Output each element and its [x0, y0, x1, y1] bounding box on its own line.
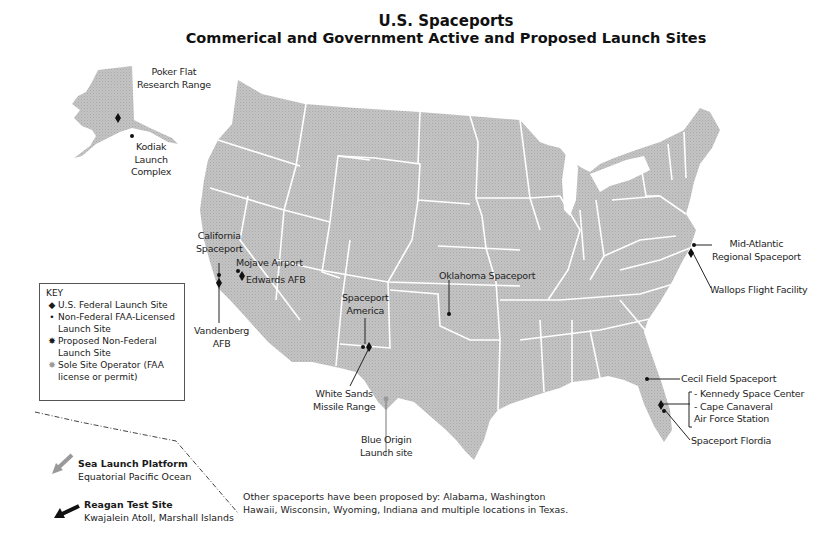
sea-launch-info: Sea Launch Platform Equatorial Pacific O…	[78, 458, 192, 483]
label-kodiak: Kodiak Launch Complex	[131, 141, 171, 179]
proposed-spaceports-note: Other spaceports have been proposed by: …	[243, 490, 568, 516]
label-oklahoma: Oklahoma Spaceport	[439, 270, 535, 283]
marker-oklahoma	[447, 312, 451, 316]
marker-mojave	[236, 269, 240, 273]
marker-mid-atlantic	[692, 243, 696, 247]
label-spaceport-florida: Spaceport Flordia	[691, 435, 771, 448]
marker-spaceport-america	[361, 345, 365, 349]
legend-item-proposed: ✸ Proposed Non-Federal Launch Site	[46, 335, 178, 359]
label-cecil-field: Cecil Field Spaceport	[681, 373, 776, 386]
diamond-icon: ◆	[46, 299, 58, 311]
legend-heading: KEY	[46, 287, 178, 299]
label-mojave: Mojave Airport	[236, 257, 303, 270]
marker-kodiak	[130, 134, 134, 138]
legend-item-federal: ◆ U.S. Federal Launch Site	[46, 299, 178, 311]
legend-item-non-federal: • Non-Federal FAA-Licensed Launch Site	[46, 311, 178, 335]
marker-california-spaceport	[217, 273, 221, 277]
label-white-sands: White Sands Missile Range	[313, 388, 375, 413]
label-mid-atlantic: Mid-Atlantic Regional Spaceport	[712, 238, 801, 263]
marker-blue-origin	[384, 397, 389, 402]
marker-spaceport-florida	[662, 409, 666, 413]
label-vandenberg: Vandenberg AFB	[194, 325, 249, 350]
label-spaceport-america: Spaceport America	[342, 292, 389, 317]
label-poker-flat: Poker Flat Research Range	[137, 66, 211, 91]
reagan-arrow-icon	[54, 506, 79, 518]
map-legend: KEY ◆ U.S. Federal Launch Site • Non-Fed…	[39, 283, 185, 401]
label-blue-origin: Blue Origin Launch site	[360, 434, 412, 459]
label-wallops: Wallops Flight Facility	[710, 284, 808, 297]
marker-cecil-field	[645, 377, 649, 381]
dot-icon: •	[46, 311, 58, 323]
reagan-info: Reagan Test Site Kwajalein Atoll, Marsha…	[84, 499, 234, 524]
gray-starburst-icon: ✸	[46, 359, 58, 371]
sea-launch-arrow-icon	[52, 455, 72, 474]
label-california-spaceport: California Spaceport	[196, 230, 243, 255]
starburst-icon: ✸	[46, 335, 58, 347]
legend-item-sole-operator: ✸ Sole Site Operator (FAA license or per…	[46, 359, 178, 383]
label-edwards: Edwards AFB	[246, 274, 306, 287]
label-kennedy-group: - Kennedy Space Center - Cape Canaveral …	[694, 388, 804, 426]
